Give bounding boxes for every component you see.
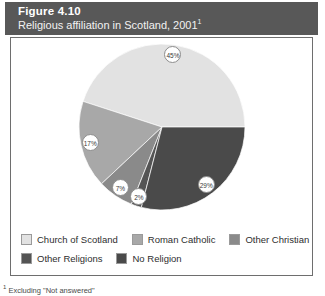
pie-slice-value-label: 7% <box>112 179 129 196</box>
chart-legend: Church of Scotland Roman Catholic Other … <box>21 230 307 268</box>
legend-row: Other Religions No Religion <box>21 249 307 268</box>
legend-swatch-church-of-scotland <box>21 234 32 245</box>
figure-subtitle-superscript: 1 <box>198 18 202 25</box>
chart-panel: 45%17%7%2%29% Church of Scotland Roman C… <box>10 37 313 276</box>
footnote-text: Excluding "Not answered" <box>6 286 94 295</box>
figure-subtitle-text: Religious affiliation in Scotland, 2001 <box>18 19 198 31</box>
legend-item-no-religion[interactable]: No Religion <box>116 253 181 264</box>
legend-label-other-christian: Other Christian <box>245 234 309 245</box>
legend-row: Church of Scotland Roman Catholic Other … <box>21 230 307 249</box>
figure-footnote: 1 Excluding "Not answered" <box>3 284 95 295</box>
legend-swatch-roman-catholic <box>132 234 143 245</box>
pie-slice-group <box>78 44 244 210</box>
figure-container: Figure 4.10 Religious affiliation in Sco… <box>5 2 318 279</box>
legend-swatch-other-religions <box>21 253 32 264</box>
pie-slice-value-label: 29% <box>198 176 215 193</box>
legend-label-no-religion: No Religion <box>132 253 181 264</box>
legend-swatch-other-christian <box>229 234 240 245</box>
legend-label-other-religions: Other Religions <box>37 253 102 264</box>
figure-header-band: Figure 4.10 Religious affiliation in Sco… <box>5 2 318 35</box>
figure-number: Figure 4.10 <box>18 5 81 17</box>
legend-swatch-no-religion <box>116 253 127 264</box>
figure-subtitle: Religious affiliation in Scotland, 20011 <box>18 18 202 31</box>
pie-chart-svg <box>77 42 247 212</box>
legend-item-roman-catholic[interactable]: Roman Catholic <box>132 234 216 245</box>
legend-label-roman-catholic: Roman Catholic <box>148 234 216 245</box>
legend-item-church-of-scotland[interactable]: Church of Scotland <box>21 234 118 245</box>
legend-label-church-of-scotland: Church of Scotland <box>37 234 118 245</box>
legend-item-other-christian[interactable]: Other Christian <box>229 234 309 245</box>
pie-chart: 45%17%7%2%29% <box>11 38 312 228</box>
legend-item-other-religions[interactable]: Other Religions <box>21 253 102 264</box>
